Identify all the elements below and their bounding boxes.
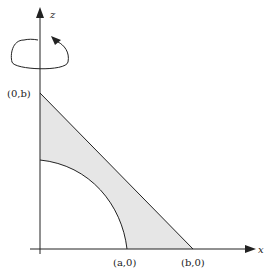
z-axis-label: z [49,9,56,20]
hypotenuse-line [40,93,193,249]
rotation-arrowhead [51,36,61,45]
diagram-canvas: z x (0,b) (a,0) (b,0) [0,0,269,277]
x-axis-label: x [258,244,264,255]
point-label-b0: (b,0) [181,257,205,268]
x-axis-arrowhead [245,245,256,253]
point-label-0b: (0,b) [7,88,31,99]
z-axis-arrowhead [36,7,44,18]
point-label-a0: (a,0) [113,257,136,268]
